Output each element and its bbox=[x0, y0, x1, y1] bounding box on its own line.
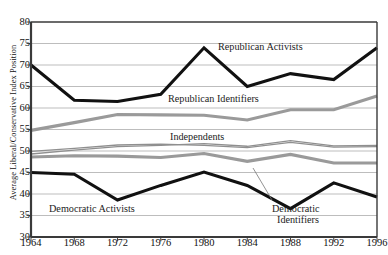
chart-figure: Average Liberal/Conservative Index Posit… bbox=[0, 0, 388, 255]
annotation-democratic-activists: Democratic Activists bbox=[49, 203, 135, 215]
plot-area bbox=[0, 0, 388, 255]
annotation-democratic: Democratic bbox=[272, 203, 320, 215]
annotation-republican-identifiers: Republican Identifiers bbox=[168, 93, 259, 105]
annotation-republican-activists: Republican Activists bbox=[218, 41, 303, 53]
series-line-democratic-identifiers bbox=[31, 154, 377, 163]
data-series-group bbox=[31, 48, 377, 209]
annotation-identifiers: Identifiers bbox=[277, 214, 319, 226]
annotation-independents: Independents bbox=[170, 131, 224, 143]
